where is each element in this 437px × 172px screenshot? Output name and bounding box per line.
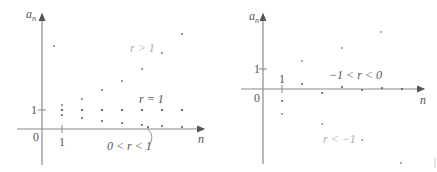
right-y-label: an (249, 9, 259, 25)
left-x-label: n (198, 132, 204, 146)
series-neg1-lt-r-lt-0 (281, 83, 403, 102)
annotation-r-lt-neg1: r < −1 (323, 132, 356, 146)
left-y-label: an (26, 7, 36, 23)
annotation-r-eq-1: r = 1 (139, 92, 164, 106)
series-0-lt-r-lt-1 (61, 114, 183, 128)
annotation-neg1-lt-r-lt-0: −1 < r < 0 (329, 68, 382, 82)
left-xtick-label: 1 (59, 135, 65, 149)
figure: an n 0 1 1 r > 1 r = 1 0 < r < 1 an (0, 0, 437, 172)
right-origin-label: 0 (254, 91, 260, 105)
left-ytick-label: 1 (31, 103, 37, 117)
right-ytick-label: 1 (254, 62, 260, 76)
right-xtick-label: 1 (279, 72, 285, 86)
left-origin-label: 0 (33, 130, 39, 144)
annotation-r-gt-1: r > 1 (130, 41, 155, 55)
right-x-label: n (420, 93, 426, 107)
series-r-eq-1 (61, 109, 183, 111)
left-chart: an n 0 1 1 r > 1 r = 1 0 < r < 1 (17, 7, 204, 165)
annotation-0-lt-r-lt-1: 0 < r < 1 (107, 139, 152, 153)
right-chart: an n 0 1 1 −1 < r < 0 r < −1 (241, 9, 435, 168)
